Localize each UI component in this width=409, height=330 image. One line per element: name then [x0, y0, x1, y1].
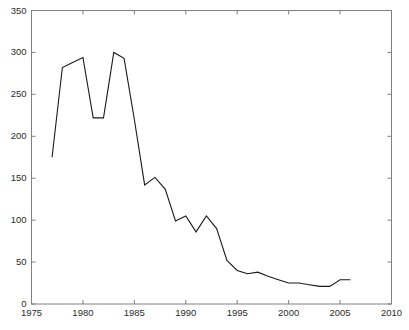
y-tick-label-5: 250	[0, 89, 27, 99]
axes-border	[32, 11, 392, 305]
x-tick-label-0: 1975	[8, 308, 56, 318]
y-tick-label-1: 50	[0, 257, 27, 267]
chart-figure: 050100150200250300350 197519801985199019…	[0, 0, 409, 330]
line-chart-canvas	[0, 0, 409, 330]
y-tick-label-2: 100	[0, 215, 27, 225]
y-tick-label-4: 200	[0, 131, 27, 141]
y-tick-label-6: 300	[0, 47, 27, 57]
x-tick-label-6: 2005	[316, 308, 364, 318]
y-tick-label-7: 350	[0, 6, 27, 16]
x-tick-label-7: 2010	[368, 308, 409, 318]
plot-frame	[32, 11, 392, 305]
x-tick-label-4: 1995	[213, 308, 261, 318]
y-tick-label-3: 150	[0, 173, 27, 183]
x-tick-label-2: 1985	[110, 308, 158, 318]
x-tick-label-1: 1980	[59, 308, 107, 318]
x-tick-label-3: 1990	[162, 308, 210, 318]
x-tick-label-5: 2000	[265, 308, 313, 318]
